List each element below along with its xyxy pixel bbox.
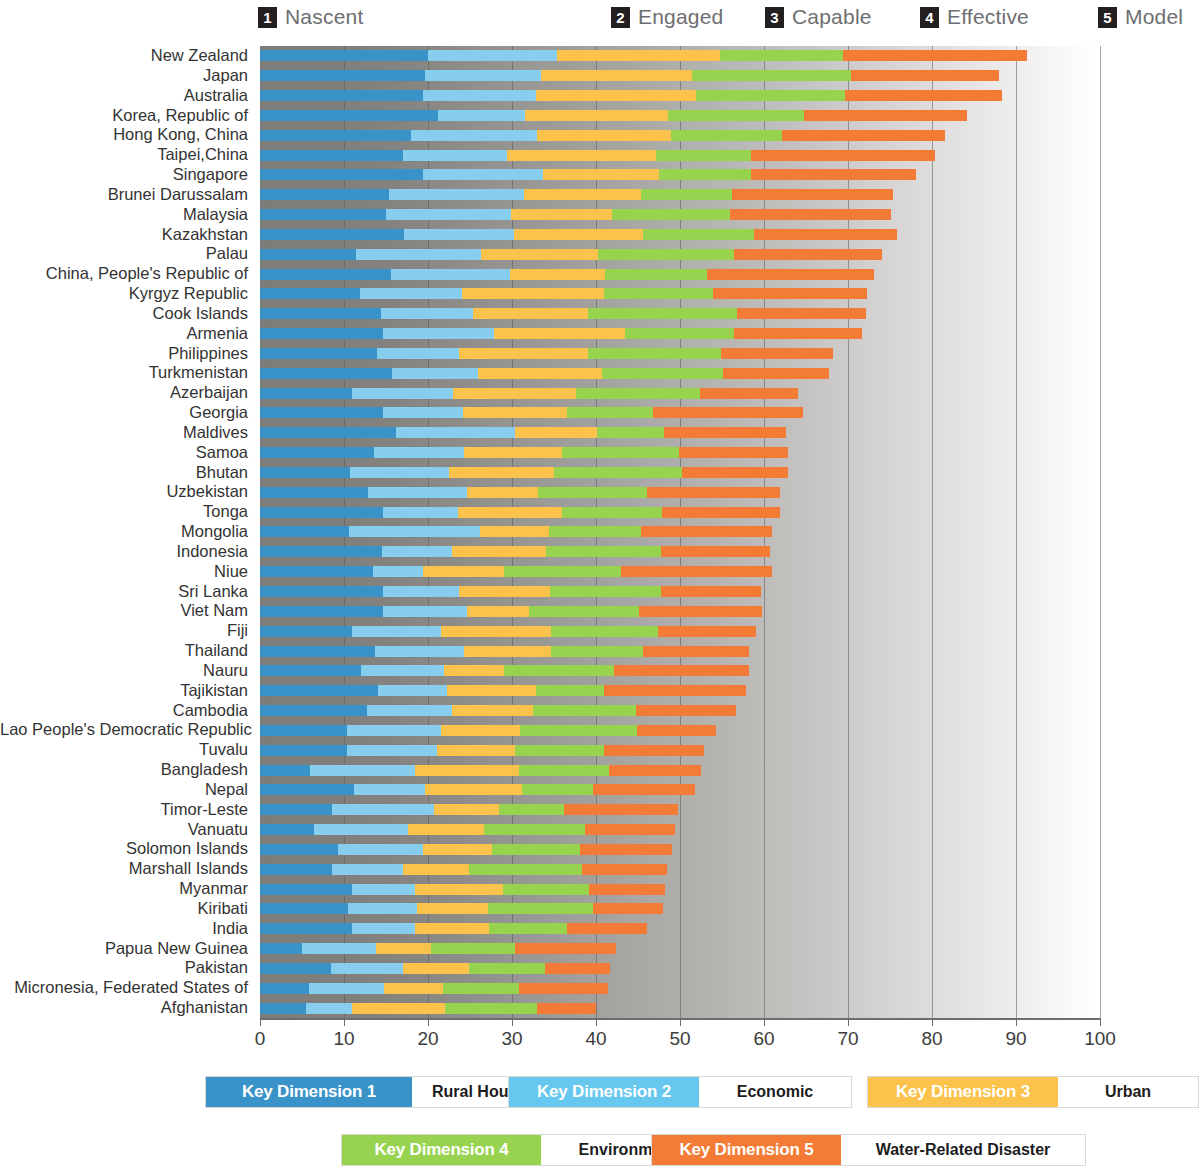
- bar-segment-kd3[interactable]: [467, 487, 538, 498]
- bar-segment-kd4[interactable]: [499, 804, 565, 815]
- bar-segment-kd4[interactable]: [588, 348, 721, 359]
- bar-segment-kd5[interactable]: [621, 566, 772, 577]
- bar-segment-kd3[interactable]: [464, 646, 551, 657]
- bar-segment-kd3[interactable]: [507, 150, 657, 161]
- bar-segment-kd5[interactable]: [700, 388, 797, 399]
- bar-segment-kd1[interactable]: [260, 784, 354, 795]
- bar-row[interactable]: [260, 225, 1100, 245]
- bar-segment-kd1[interactable]: [260, 447, 374, 458]
- bar-segment-kd2[interactable]: [428, 50, 557, 61]
- bar-segment-kd4[interactable]: [431, 943, 515, 954]
- bar-segment-kd4[interactable]: [520, 725, 638, 736]
- bar-segment-kd3[interactable]: [449, 467, 554, 478]
- bar-segment-kd2[interactable]: [373, 566, 423, 577]
- bar-segment-kd1[interactable]: [260, 1003, 306, 1014]
- bar-segment-kd4[interactable]: [588, 308, 738, 319]
- bar-segment-kd4[interactable]: [551, 646, 643, 657]
- bar-row[interactable]: [260, 86, 1100, 106]
- bar-segment-kd2[interactable]: [338, 844, 423, 855]
- bar-segment-kd1[interactable]: [260, 487, 368, 498]
- bar-segment-kd4[interactable]: [597, 427, 664, 438]
- bar-row[interactable]: [260, 482, 1100, 502]
- bar-segment-kd4[interactable]: [551, 626, 659, 637]
- bar-segment-kd5[interactable]: [589, 884, 665, 895]
- bar-row[interactable]: [260, 998, 1100, 1018]
- bar-row[interactable]: [260, 582, 1100, 602]
- bar-segment-kd2[interactable]: [332, 864, 403, 875]
- bar-row[interactable]: [260, 165, 1100, 185]
- bar-segment-kd5[interactable]: [545, 963, 611, 974]
- bar-segment-kd2[interactable]: [425, 70, 541, 81]
- bar-segment-kd2[interactable]: [349, 526, 480, 537]
- bar-segment-kd4[interactable]: [443, 983, 519, 994]
- bar-segment-kd2[interactable]: [391, 269, 510, 280]
- bar-segment-kd4[interactable]: [562, 507, 663, 518]
- bar-segment-kd2[interactable]: [383, 407, 464, 418]
- bar-segment-kd4[interactable]: [522, 784, 593, 795]
- bar-segment-kd4[interactable]: [469, 963, 545, 974]
- bar-segment-kd4[interactable]: [533, 705, 636, 716]
- bar-segment-kd2[interactable]: [347, 745, 437, 756]
- bar-row[interactable]: [260, 760, 1100, 780]
- bar-segment-kd4[interactable]: [503, 884, 590, 895]
- bar-segment-kd4[interactable]: [492, 844, 580, 855]
- bar-segment-kd2[interactable]: [331, 963, 402, 974]
- bar-segment-kd5[interactable]: [732, 189, 893, 200]
- bar-segment-kd3[interactable]: [452, 705, 533, 716]
- bar-row[interactable]: [260, 284, 1100, 304]
- bar-segment-kd4[interactable]: [519, 765, 609, 776]
- bar-segment-kd3[interactable]: [511, 209, 612, 220]
- bar-segment-kd2[interactable]: [383, 507, 459, 518]
- bar-segment-kd4[interactable]: [598, 249, 734, 260]
- bar-segment-kd5[interactable]: [661, 546, 770, 557]
- bar-segment-kd3[interactable]: [481, 249, 598, 260]
- bar-segment-kd1[interactable]: [260, 348, 377, 359]
- bar-segment-kd2[interactable]: [352, 626, 442, 637]
- bar-segment-kd3[interactable]: [543, 169, 659, 180]
- bar-row[interactable]: [260, 939, 1100, 959]
- bar-segment-kd1[interactable]: [260, 70, 425, 81]
- bar-segment-kd3[interactable]: [417, 903, 488, 914]
- bar-segment-kd5[interactable]: [653, 407, 803, 418]
- bar-segment-kd1[interactable]: [260, 150, 403, 161]
- bar-segment-kd2[interactable]: [361, 665, 444, 676]
- bar-segment-kd3[interactable]: [537, 130, 671, 141]
- bar-segment-kd4[interactable]: [604, 288, 712, 299]
- bar-segment-kd4[interactable]: [488, 903, 594, 914]
- bar-row[interactable]: [260, 463, 1100, 483]
- bar-segment-kd1[interactable]: [260, 526, 349, 537]
- bar-segment-kd1[interactable]: [260, 824, 314, 835]
- bar-segment-kd3[interactable]: [536, 90, 696, 101]
- bar-segment-kd4[interactable]: [656, 150, 750, 161]
- bar-segment-kd1[interactable]: [260, 665, 361, 676]
- bar-row[interactable]: [260, 324, 1100, 344]
- bar-segment-kd2[interactable]: [411, 130, 537, 141]
- bar-segment-kd5[interactable]: [737, 308, 866, 319]
- bar-segment-kd5[interactable]: [730, 209, 891, 220]
- bar-segment-kd3[interactable]: [415, 765, 519, 776]
- bar-segment-kd1[interactable]: [260, 566, 373, 577]
- bar-segment-kd3[interactable]: [437, 745, 514, 756]
- bar-segment-kd4[interactable]: [643, 229, 754, 240]
- bar-segment-kd3[interactable]: [464, 447, 561, 458]
- bar-segment-kd1[interactable]: [260, 705, 367, 716]
- bar-segment-kd3[interactable]: [434, 804, 499, 815]
- bar-segment-kd1[interactable]: [260, 388, 352, 399]
- bar-segment-kd5[interactable]: [580, 844, 672, 855]
- bar-segment-kd3[interactable]: [441, 725, 520, 736]
- bar-segment-kd5[interactable]: [707, 269, 874, 280]
- bar-segment-kd1[interactable]: [260, 209, 386, 220]
- bar-segment-kd1[interactable]: [260, 50, 428, 61]
- bar-segment-kd1[interactable]: [260, 844, 338, 855]
- bar-segment-kd4[interactable]: [529, 606, 639, 617]
- bar-segment-kd4[interactable]: [602, 368, 723, 379]
- bar-row[interactable]: [260, 681, 1100, 701]
- bar-segment-kd4[interactable]: [696, 90, 845, 101]
- bar-segment-kd3[interactable]: [463, 407, 567, 418]
- bar-segment-kd1[interactable]: [260, 308, 381, 319]
- bar-row[interactable]: [260, 66, 1100, 86]
- bar-segment-kd2[interactable]: [389, 189, 523, 200]
- bar-segment-kd1[interactable]: [260, 368, 392, 379]
- bar-segment-kd3[interactable]: [453, 388, 576, 399]
- bar-segment-kd3[interactable]: [557, 50, 720, 61]
